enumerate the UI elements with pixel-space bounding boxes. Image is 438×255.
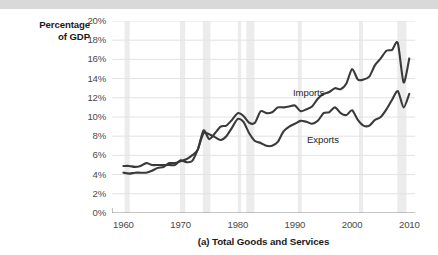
y-tick-label: 18% <box>78 34 106 45</box>
chart-svg <box>112 21 415 213</box>
y-tick-label: 16% <box>78 53 106 64</box>
x-tick-label: 2000 <box>332 219 372 230</box>
series-label-imports: Imports <box>293 87 324 98</box>
y-tick-label: 2% <box>78 188 106 199</box>
series-label-exports: Exports <box>307 134 339 145</box>
plot-area <box>112 21 415 213</box>
figure-caption: (a) Total Goods and Services <box>112 236 415 247</box>
y-tick-label: 14% <box>78 73 106 84</box>
y-tick-label: 4% <box>78 169 106 180</box>
x-tick-label: 1970 <box>161 219 201 230</box>
y-tick-label: 20% <box>78 15 106 26</box>
x-tick-label: 1980 <box>218 219 258 230</box>
y-tick-label: 12% <box>78 92 106 103</box>
x-tick-label: 1990 <box>275 219 315 230</box>
x-tick-label: 2010 <box>389 219 429 230</box>
y-tick-label: 6% <box>78 149 106 160</box>
x-tick-label: 1960 <box>103 219 143 230</box>
y-tick-label: 8% <box>78 130 106 141</box>
data-series-lines <box>123 42 409 174</box>
top-decorative-strip <box>0 0 438 9</box>
y-tick-label: 10% <box>78 111 106 122</box>
figure-total-goods-and-services: Percentage of GDP 20%18%16%14%12%10%8%6%… <box>0 9 438 255</box>
series-line-imports <box>123 42 409 174</box>
y-tick-label: 0% <box>78 207 106 218</box>
axis-lines <box>112 208 415 213</box>
